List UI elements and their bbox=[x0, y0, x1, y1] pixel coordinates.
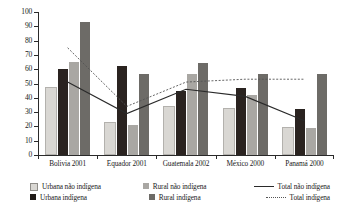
x-axis-tick bbox=[333, 155, 334, 159]
bar bbox=[187, 74, 197, 156]
bar bbox=[306, 128, 316, 155]
square-black-icon bbox=[30, 194, 36, 200]
bar bbox=[163, 106, 175, 155]
dotted-line-icon bbox=[266, 194, 286, 200]
solid-line-icon bbox=[254, 183, 274, 189]
x-axis-tick bbox=[156, 155, 157, 159]
legend-row-top: Urbana não indígena Rural não indígena T… bbox=[30, 181, 330, 192]
x-axis-tick bbox=[38, 155, 39, 159]
bar bbox=[247, 95, 257, 155]
bar bbox=[176, 91, 186, 155]
bar-group bbox=[275, 12, 334, 155]
legend-item-urbana-nao-indigena: Urbana não indígena bbox=[30, 183, 143, 191]
bar bbox=[139, 74, 149, 155]
y-axis-tick-label: 90 bbox=[25, 23, 32, 31]
bar-group bbox=[156, 12, 215, 155]
bar bbox=[282, 127, 294, 155]
bar bbox=[80, 22, 90, 155]
legend-label: Rural não indígena bbox=[153, 183, 207, 190]
x-axis-category-label: Bolivia 2001 bbox=[49, 160, 86, 167]
square-light-gray-icon bbox=[30, 183, 38, 191]
x-axis-category-label: México 2000 bbox=[226, 160, 264, 167]
y-axis-tick-label: 30 bbox=[25, 108, 32, 116]
x-axis-line bbox=[38, 155, 334, 156]
y-axis-tick-label: 70 bbox=[25, 51, 32, 59]
bar bbox=[104, 122, 116, 155]
x-axis-tick bbox=[216, 155, 217, 159]
legend-label: Total indígena bbox=[290, 194, 330, 201]
bar bbox=[128, 125, 138, 155]
square-dark-gray-icon bbox=[149, 194, 155, 200]
bar-group bbox=[216, 12, 275, 155]
bar bbox=[295, 109, 305, 155]
x-axis-category-label: Panamá 2000 bbox=[285, 160, 323, 167]
square-medium-gray-icon bbox=[143, 183, 149, 189]
y-axis-tick-label: 100 bbox=[21, 8, 32, 16]
legend-label: Rural indígena bbox=[159, 194, 201, 201]
bar bbox=[58, 69, 68, 156]
bar-group bbox=[97, 12, 156, 155]
y-axis-tick-label: 0 bbox=[28, 151, 32, 159]
y-axis-tick-label: 50 bbox=[25, 80, 32, 88]
legend-item-total-indigena: Total indígena bbox=[266, 194, 330, 201]
legend-item-urbana-indigena: Urbana indígena bbox=[30, 194, 149, 201]
bar bbox=[69, 62, 79, 155]
y-axis-tick-label: 60 bbox=[25, 65, 32, 73]
y-axis-tick-label: 20 bbox=[25, 123, 32, 131]
legend-label: Total não indígena bbox=[278, 183, 330, 190]
x-axis-tick bbox=[97, 155, 98, 159]
bar bbox=[198, 63, 208, 155]
legend-item-total-nao-indigena: Total não indígena bbox=[254, 183, 330, 190]
x-axis-category-label: Guatemala 2002 bbox=[163, 160, 210, 167]
legend-item-rural-indigena: Rural indígena bbox=[149, 194, 266, 201]
x-axis-category-label: Equador 2001 bbox=[107, 160, 147, 167]
legend-item-rural-nao-indigena: Rural não indígena bbox=[143, 183, 254, 190]
bar bbox=[223, 108, 235, 155]
bar-groups bbox=[38, 12, 334, 155]
bar-group bbox=[38, 12, 97, 155]
bar bbox=[317, 74, 327, 156]
bar bbox=[117, 66, 127, 155]
chart-figure: 1009080706050403020100 Bolivia 2001Equad… bbox=[0, 0, 345, 213]
legend-label: Urbana indígena bbox=[40, 194, 87, 201]
bar bbox=[236, 88, 246, 155]
legend-row-bottom: Urbana indígena Rural indígena Total ind… bbox=[30, 192, 330, 203]
plot-area: 1009080706050403020100 Bolivia 2001Equad… bbox=[38, 12, 334, 155]
bar bbox=[258, 74, 268, 156]
x-axis-tick bbox=[275, 155, 276, 159]
legend-label: Urbana não indígena bbox=[42, 183, 101, 190]
y-axis-tick-label: 80 bbox=[25, 37, 32, 45]
y-axis-tick-label: 10 bbox=[25, 137, 32, 145]
y-axis-tick-label: 40 bbox=[25, 94, 32, 102]
chart-legend: Urbana não indígena Rural não indígena T… bbox=[30, 181, 330, 203]
bar bbox=[45, 87, 57, 155]
